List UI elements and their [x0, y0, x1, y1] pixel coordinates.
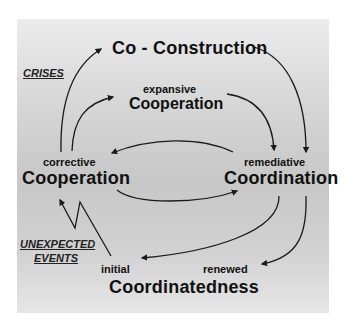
node-expansive-qualifier: expansive — [143, 84, 196, 95]
trigger-crises: CRISES — [23, 68, 64, 79]
trigger-unexpected-events-line1: UNEXPECTED — [20, 239, 95, 250]
node-co-construction: Co - Construction — [112, 39, 267, 57]
arrow-expansive-to-coordination — [227, 94, 274, 150]
arrow-corrective-to-coordination — [117, 190, 237, 201]
arrow-crises-to-coconstruction — [61, 49, 101, 152]
trigger-unexpected-events-line2: EVENTS — [34, 253, 78, 264]
node-corrective-cooperation: Cooperation — [22, 169, 130, 187]
arrow-coordination-to-corrective — [112, 141, 233, 153]
node-coordinatedness: Coordinatedness — [109, 278, 259, 296]
node-renewed-qualifier: renewed — [203, 264, 248, 275]
node-remediative-coordination: Coordination — [224, 169, 338, 187]
arrow-coordination-to-initial — [142, 196, 279, 258]
arrow-coconstruction-to-coordination — [254, 47, 306, 152]
node-remediative-qualifier: remediative — [244, 157, 305, 168]
node-corrective-qualifier: corrective — [43, 157, 96, 168]
node-initial-qualifier: initial — [101, 264, 130, 275]
arrow-coordination-to-renewed — [262, 196, 306, 264]
node-expansive-cooperation: Cooperation — [129, 96, 223, 112]
arrow-corrective-to-expansive — [72, 97, 113, 151]
